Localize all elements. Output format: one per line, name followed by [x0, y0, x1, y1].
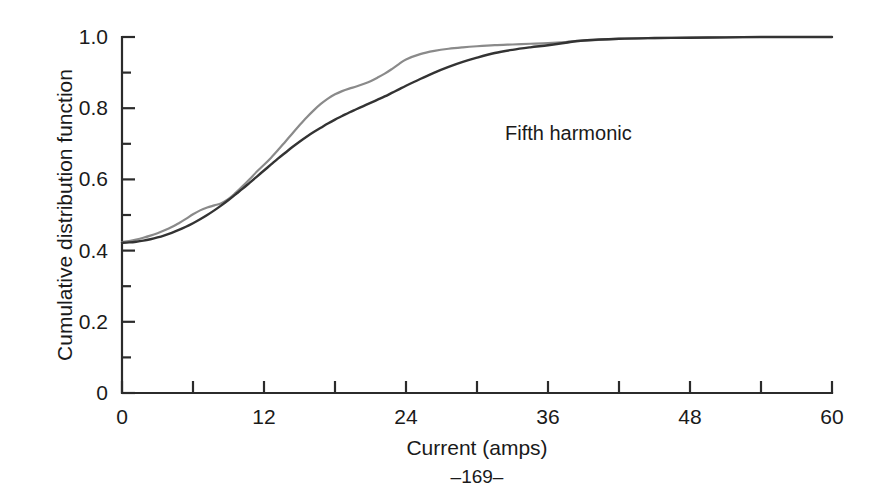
series-lower-curve: [122, 37, 832, 243]
x-tick-label: 0: [116, 405, 128, 428]
page-number: –169–: [451, 466, 504, 487]
x-axis-title: Current (amps): [406, 436, 547, 459]
x-tick-label: 12: [252, 405, 275, 428]
x-tick-label: 60: [820, 405, 843, 428]
chart-annotation: Fifth harmonic: [505, 122, 632, 144]
y-tick-label: 0.2: [79, 310, 108, 333]
series-upper-curve: [122, 37, 832, 242]
tick-labels-group: 00.20.40.60.81.001224364860: [79, 25, 844, 428]
y-tick-label: 0: [96, 381, 108, 404]
axes-group: [122, 37, 832, 393]
x-tick-label: 24: [394, 405, 418, 428]
y-tick-label: 0.4: [79, 239, 109, 262]
y-axis-title: Cumulative distribution function: [53, 69, 76, 361]
axis-spine: [122, 37, 832, 393]
x-tick-label: 36: [536, 405, 559, 428]
y-tick-label: 0.6: [79, 167, 108, 190]
y-tick-label: 1.0: [79, 25, 108, 48]
series-group: [122, 37, 832, 243]
x-tick-label: 48: [678, 405, 701, 428]
y-tick-label: 0.8: [79, 96, 108, 119]
figure-container: 00.20.40.60.81.001224364860 Fifth harmon…: [0, 0, 885, 501]
cdf-chart: 00.20.40.60.81.001224364860 Fifth harmon…: [0, 0, 885, 501]
